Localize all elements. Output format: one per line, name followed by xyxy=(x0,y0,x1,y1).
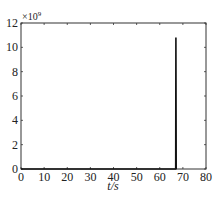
y-tick-label: 8 xyxy=(12,65,18,79)
x-tick-label: 60 xyxy=(154,170,166,184)
series-line xyxy=(21,38,176,169)
x-tick-label: 0 xyxy=(18,170,24,184)
chart: 01020304050607080024681012 ×109 t/s xyxy=(0,0,221,197)
y-tick-label: 12 xyxy=(6,16,18,30)
plot-frame xyxy=(21,23,206,169)
axis-ticks: 01020304050607080024681012 xyxy=(6,16,212,184)
x-axis-label: t/s xyxy=(107,179,119,193)
y-tick-label: 0 xyxy=(12,162,18,176)
x-tick-label: 30 xyxy=(84,170,96,184)
y-tick-label: 2 xyxy=(12,138,18,152)
x-tick-label: 20 xyxy=(61,170,73,184)
data-series xyxy=(21,38,176,169)
x-tick-label: 80 xyxy=(200,170,212,184)
y-tick-label: 10 xyxy=(6,40,18,54)
y-tick-label: 6 xyxy=(12,89,18,103)
x-tick-label: 50 xyxy=(131,170,143,184)
y-tick-label: 4 xyxy=(12,113,18,127)
x-tick-label: 70 xyxy=(177,170,189,184)
y-multiplier: ×109 xyxy=(22,10,42,22)
x-tick-label: 10 xyxy=(38,170,50,184)
